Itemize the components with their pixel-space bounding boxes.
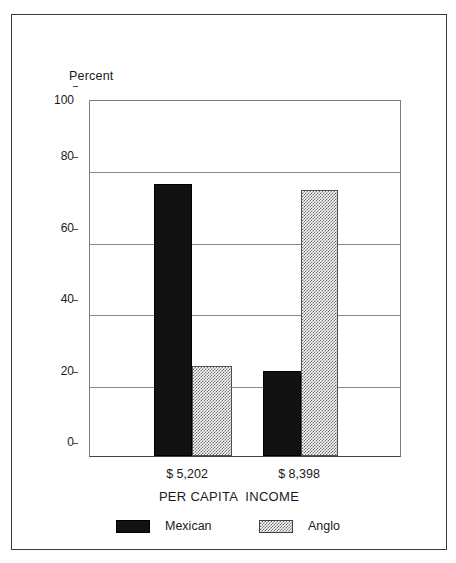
y-tick-label-40: 40 xyxy=(40,292,74,306)
gridline-80 xyxy=(90,172,400,173)
legend-entry-mexican[interactable]: Mexican xyxy=(116,518,212,534)
checkered-gray-swatch-icon xyxy=(259,520,293,533)
gridline-60 xyxy=(90,244,400,245)
x-group-label-2: $ 8,398 xyxy=(244,467,354,481)
legend-label-mexican: Mexican xyxy=(165,519,212,533)
y-tick-label-80: 80 xyxy=(40,149,74,163)
gridline-40 xyxy=(90,315,400,316)
y-tick-label-100: 100 xyxy=(40,93,74,107)
bar-mexican-5202[interactable] xyxy=(154,184,192,456)
figure-frame: Percent 100 80 60 40 20 0 $ 5,202 $ 8,39… xyxy=(11,14,447,550)
y-tick-label-60: 60 xyxy=(40,221,74,235)
legend: Mexican Anglo xyxy=(1,518,456,538)
y-tick-mark-0 xyxy=(73,443,78,444)
plot-area xyxy=(89,100,401,457)
y-tick-mark-80 xyxy=(73,157,78,158)
y-tick-mark-60 xyxy=(73,229,78,230)
gridline-20 xyxy=(90,387,400,388)
bar-anglo-8398[interactable] xyxy=(301,190,338,456)
legend-label-anglo: Anglo xyxy=(308,519,340,533)
y-tick-mark-40 xyxy=(73,300,78,301)
y-tick-label-0: 0 xyxy=(40,435,74,449)
y-tick-mark-20 xyxy=(73,372,78,373)
y-tick-mark-100 xyxy=(73,86,78,87)
bar-anglo-5202[interactable] xyxy=(192,366,232,456)
bar-mexican-8398[interactable] xyxy=(263,371,301,456)
x-group-label-1: $ 5,202 xyxy=(132,467,242,481)
solid-black-swatch-icon xyxy=(116,520,150,533)
x-axis-title: PER CAPITA INCOME xyxy=(1,489,456,504)
y-tick-label-20: 20 xyxy=(40,364,74,378)
legend-entry-anglo[interactable]: Anglo xyxy=(259,518,340,534)
y-axis-title: Percent xyxy=(69,69,113,83)
